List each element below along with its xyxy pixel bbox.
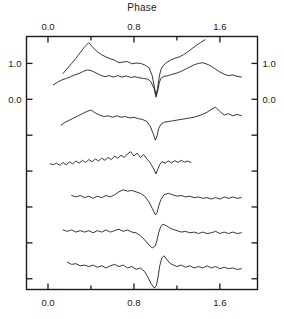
curve-3	[61, 107, 242, 140]
curve-1	[63, 40, 205, 95]
curve-2	[53, 63, 241, 97]
axis-frame	[27, 37, 258, 290]
x-tick-label-bottom: 0.8	[127, 297, 140, 308]
y-tick-label-left: 0.0	[8, 94, 21, 105]
axis-ticks	[27, 37, 258, 290]
x-tick-label-bottom: 1.6	[213, 297, 226, 308]
x-tick-label-bottom: 0.0	[41, 297, 54, 308]
y-tick-label-left: 1.0	[8, 58, 21, 69]
y-tick-label-right: 1.0	[263, 58, 276, 69]
plot-canvas: 0.00.00.80.81.61.61.01.00.00.0	[0, 0, 284, 319]
curve-7	[67, 256, 241, 288]
x-tick-label-top: 0.0	[41, 21, 54, 32]
x-tick-label-top: 0.8	[127, 21, 140, 32]
light-curves	[50, 40, 241, 288]
curve-4	[50, 152, 191, 174]
curve-6	[63, 224, 241, 248]
light-curve-figure: Phase 0.00.00.80.81.61.61.01.00.00.0	[0, 0, 284, 319]
x-tick-label-top: 1.6	[213, 21, 226, 32]
curve-5	[72, 190, 242, 215]
y-tick-label-right: 0.0	[263, 94, 276, 105]
